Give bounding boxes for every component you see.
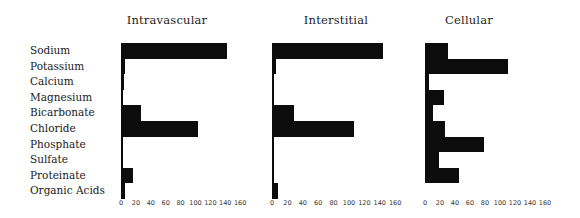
x-tick-label: 140 xyxy=(524,199,536,207)
x-tick-label: 100 xyxy=(189,199,201,207)
x-tick-label: 140 xyxy=(219,199,231,207)
panel-title: Intravascular xyxy=(82,13,252,27)
bar-chloride xyxy=(425,121,445,137)
x-tick-label: 160 xyxy=(389,199,401,207)
bar-sulfate xyxy=(272,152,274,168)
x-tick-label: 20 xyxy=(132,199,140,207)
x-tick-label: 100 xyxy=(494,199,506,207)
bar-potassium xyxy=(425,59,508,75)
x-tick-label: 120 xyxy=(358,199,370,207)
category-label: Calcium xyxy=(30,74,74,90)
bar-calcium xyxy=(121,74,124,90)
bar-calcium xyxy=(425,74,429,90)
bar-potassium xyxy=(272,59,276,75)
x-tick-label: 100 xyxy=(343,199,355,207)
bar-proteinate xyxy=(425,168,459,184)
bar-sodium xyxy=(121,43,227,59)
bar-sodium xyxy=(272,43,383,59)
x-tick-label: 80 xyxy=(481,199,489,207)
bar-magnesium xyxy=(425,90,444,106)
x-tick-label: 0 xyxy=(423,199,427,207)
category-label: Potassium xyxy=(30,59,84,75)
bar-bicarbonate xyxy=(272,105,294,121)
bar-calcium xyxy=(272,74,274,90)
bar-magnesium xyxy=(121,90,123,106)
x-tick-label: 20 xyxy=(283,199,291,207)
bar-organic-acids xyxy=(121,183,125,199)
category-label: Chloride xyxy=(30,121,76,137)
x-tick-label: 80 xyxy=(329,199,337,207)
x-tick-label: 60 xyxy=(314,199,322,207)
category-label: Sodium xyxy=(30,43,70,59)
bar-bicarbonate xyxy=(425,105,433,121)
bar-plot-intravascular xyxy=(121,43,240,199)
category-label: Proteinate xyxy=(30,168,86,184)
bar-magnesium xyxy=(272,90,274,106)
x-tick-label: 40 xyxy=(299,199,307,207)
x-tick-label: 120 xyxy=(204,199,216,207)
x-tick-label: 160 xyxy=(234,199,246,207)
x-tick-label: 0 xyxy=(270,199,274,207)
x-tick-label: 120 xyxy=(509,199,521,207)
bar-bicarbonate xyxy=(121,105,141,121)
x-tick-label: 20 xyxy=(436,199,444,207)
bar-sulfate xyxy=(121,152,123,168)
x-tick-label: 60 xyxy=(162,199,170,207)
bar-proteinate xyxy=(121,168,133,184)
x-tick-label: 0 xyxy=(119,199,123,207)
bar-phosphate xyxy=(272,137,274,153)
bar-organic-acids xyxy=(272,183,278,199)
bar-plot-interstitial xyxy=(272,43,395,199)
category-label: Phosphate xyxy=(30,137,86,153)
x-tick-label: 60 xyxy=(466,199,474,207)
bar-proteinate xyxy=(272,168,274,184)
category-label: Sulfate xyxy=(30,152,68,168)
panel-title: Cellular xyxy=(384,13,554,27)
bar-potassium xyxy=(121,59,125,75)
x-tick-label: 80 xyxy=(176,199,184,207)
bar-plot-cellular xyxy=(425,43,545,199)
x-tick-label: 160 xyxy=(539,199,551,207)
x-tick-label: 140 xyxy=(374,199,386,207)
bar-sodium xyxy=(425,43,448,59)
bar-phosphate xyxy=(121,137,123,153)
x-tick-label: 40 xyxy=(147,199,155,207)
bar-sulfate xyxy=(425,152,439,168)
x-tick-label: 40 xyxy=(451,199,459,207)
bar-phosphate xyxy=(425,137,484,153)
bar-chloride xyxy=(272,121,354,137)
bar-chloride xyxy=(121,121,198,137)
